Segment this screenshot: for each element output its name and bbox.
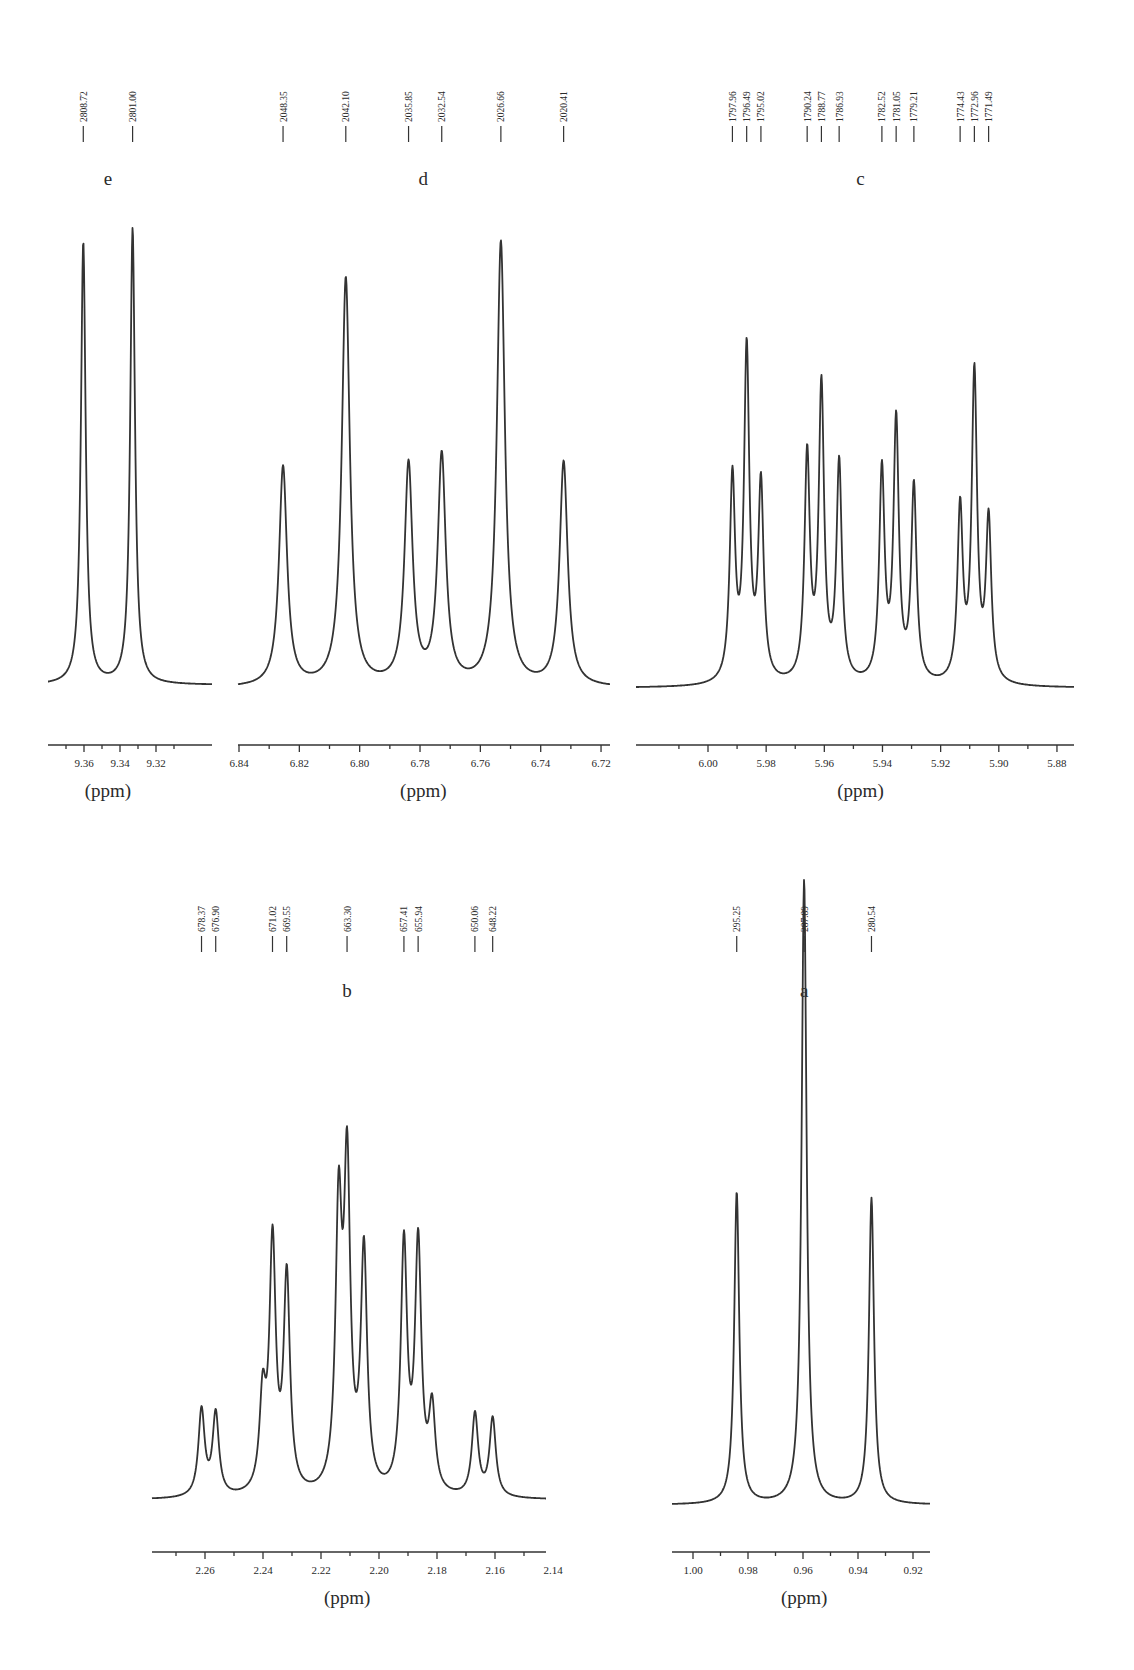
peak-frequency-label: 2032.54 xyxy=(437,91,447,122)
tick-label: 9.32 xyxy=(146,757,165,769)
x-axis-label: (ppm) xyxy=(400,780,446,802)
tick-label: 5.96 xyxy=(815,757,835,769)
panel-letter: a xyxy=(800,980,809,1001)
tick-label: 1.00 xyxy=(683,1564,703,1576)
peak-frequency-label: 1774.43 xyxy=(956,91,966,122)
tick-label: 9.36 xyxy=(74,757,94,769)
tick-label: 2.18 xyxy=(427,1564,447,1576)
spectrum-trace xyxy=(636,338,1074,687)
tick-label: 5.92 xyxy=(931,757,950,769)
panel-letter: e xyxy=(104,168,112,189)
peak-frequency-label: 2042.10 xyxy=(341,91,351,122)
panel-letter: d xyxy=(419,168,429,189)
tick-label: 2.24 xyxy=(253,1564,273,1576)
peak-frequency-label: 1795.02 xyxy=(756,91,766,122)
peak-frequency-label: 1796.49 xyxy=(742,91,752,122)
peak-frequency-label: 1797.96 xyxy=(728,91,738,122)
tick-label: 2.22 xyxy=(311,1564,330,1576)
peak-frequency-label: 648.22 xyxy=(488,906,498,932)
spectrum-panel-d: d (ppm) 6.846.826.806.786.766.746.722048… xyxy=(229,91,610,802)
peak-frequency-label: 280.54 xyxy=(867,906,877,932)
peak-frequency-label: 669.55 xyxy=(282,906,292,932)
peak-frequency-label: 676.90 xyxy=(211,906,221,932)
peak-frequency-label: 1779.21 xyxy=(909,91,919,122)
peak-frequency-label: 678.37 xyxy=(197,906,207,932)
peak-frequency-label: 1786.93 xyxy=(835,91,845,122)
peak-frequency-label: 2801.00 xyxy=(128,91,138,122)
nmr-figure: e (ppm) 9.369.349.322808.722801.00 d (pp… xyxy=(0,0,1134,1670)
peak-frequency-label: 2048.35 xyxy=(279,91,289,122)
tick-label: 5.88 xyxy=(1047,757,1067,769)
tick-label: 5.90 xyxy=(989,757,1009,769)
peak-frequency-label: 650.06 xyxy=(470,906,480,932)
spectrum-trace xyxy=(48,228,212,684)
peak-frequency-label: 2020.41 xyxy=(559,91,569,122)
x-axis-label: (ppm) xyxy=(324,1587,370,1609)
peak-frequency-label: 671.02 xyxy=(268,906,278,932)
tick-label: 0.92 xyxy=(903,1564,922,1576)
peak-frequency-label: 1771.49 xyxy=(984,91,994,122)
peak-frequency-label: 655.94 xyxy=(414,906,424,932)
peak-frequency-label: 1782.52 xyxy=(877,91,887,122)
tick-label: 6.78 xyxy=(410,757,430,769)
spectrum-trace xyxy=(672,880,930,1504)
spectrum-panel-a: a (ppm) 1.000.980.960.940.92295.25287.89… xyxy=(672,880,930,1609)
peak-frequency-label: 287.89 xyxy=(800,906,810,932)
panel-letter: b xyxy=(342,980,352,1001)
peak-frequency-label: 663.30 xyxy=(343,906,353,932)
tick-label: 6.80 xyxy=(350,757,370,769)
tick-label: 0.96 xyxy=(793,1564,813,1576)
tick-label: 2.14 xyxy=(543,1564,563,1576)
tick-label: 2.20 xyxy=(369,1564,389,1576)
peak-frequency-label: 2808.72 xyxy=(79,91,89,122)
peak-frequency-label: 2035.85 xyxy=(404,91,414,122)
tick-label: 2.16 xyxy=(485,1564,505,1576)
tick-label: 0.98 xyxy=(738,1564,758,1576)
tick-label: 5.98 xyxy=(757,757,777,769)
panel-letter: c xyxy=(856,168,864,189)
x-axis-label: (ppm) xyxy=(781,1587,827,1609)
spectrum-panel-c: c (ppm) 6.005.985.965.945.925.905.881797… xyxy=(636,91,1074,802)
tick-label: 6.84 xyxy=(229,757,249,769)
spectrum-panel-b: b (ppm) 2.262.242.222.202.182.162.14678.… xyxy=(152,906,563,1609)
tick-label: 2.26 xyxy=(195,1564,215,1576)
x-axis-label: (ppm) xyxy=(85,780,131,802)
tick-label: 6.76 xyxy=(471,757,491,769)
peak-frequency-label: 2026.66 xyxy=(496,91,506,122)
x-axis-label: (ppm) xyxy=(837,780,883,802)
tick-label: 6.74 xyxy=(531,757,551,769)
tick-label: 9.34 xyxy=(110,757,130,769)
tick-label: 6.82 xyxy=(290,757,309,769)
spectrum-trace xyxy=(152,1126,546,1498)
peak-frequency-label: 1788.77 xyxy=(817,91,827,122)
peak-frequency-label: 657.41 xyxy=(399,906,409,932)
peak-frequency-label: 1790.24 xyxy=(803,91,813,122)
spectrum-trace xyxy=(238,241,610,685)
tick-label: 0.94 xyxy=(848,1564,868,1576)
tick-label: 6.00 xyxy=(698,757,718,769)
tick-label: 6.72 xyxy=(591,757,610,769)
spectrum-panel-e: e (ppm) 9.369.349.322808.722801.00 xyxy=(48,91,212,802)
peak-frequency-label: 1781.05 xyxy=(892,91,902,122)
peak-frequency-label: 1772.96 xyxy=(970,91,980,122)
tick-label: 5.94 xyxy=(873,757,893,769)
peak-frequency-label: 295.25 xyxy=(732,906,742,932)
